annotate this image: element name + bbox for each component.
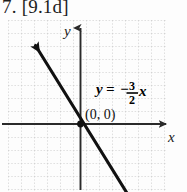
problem-header: 7.[9.1d] — [2, 0, 69, 18]
x-axis-label: x — [167, 129, 175, 145]
origin-point — [77, 121, 84, 128]
grid-lines — [8, 20, 166, 192]
equation-minus-sign: − — [120, 81, 129, 97]
y-axis-label: y — [62, 23, 71, 39]
equation-numerator: 3 — [129, 79, 135, 93]
origin-label: (0, 0) — [85, 107, 116, 123]
textbook-graph-figure: 7.[9.1d] — [0, 0, 187, 192]
equation-denominator: 2 — [129, 93, 135, 107]
equation-lhs: y — [94, 81, 103, 97]
coordinate-plane: y x (0, 0) y = − 3 2 x — [0, 18, 187, 192]
problem-number: 7. — [2, 0, 17, 17]
problem-reference: [9.1d] — [22, 0, 69, 17]
equation-variable: x — [138, 83, 147, 99]
equation-equals: = — [106, 81, 115, 97]
